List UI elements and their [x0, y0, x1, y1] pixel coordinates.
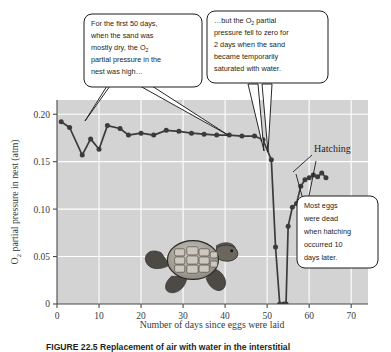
figure-caption-label: FIGURE 22.5 — [46, 342, 98, 352]
data-point — [214, 133, 219, 138]
x-tick-label: 10 — [94, 311, 104, 321]
y-tick-label: 0.20 — [33, 110, 50, 120]
callout-pressure-zero-line-3: 2 days when the sand — [214, 40, 285, 49]
callout-early-days-line-3: mostly dry, the O2 — [91, 43, 149, 53]
data-point — [105, 123, 110, 128]
data-point — [189, 131, 194, 136]
y-tick-label: 0.10 — [33, 205, 50, 215]
y-tick-label: 0.15 — [33, 157, 50, 167]
callout-pressure-zero-line-2: pressure fell to zero for — [214, 28, 289, 37]
y-tick-label: 0 — [45, 299, 50, 309]
figure-caption-text: Replacement of air with water in the int… — [100, 342, 290, 352]
data-point — [319, 171, 324, 176]
hatching-annotation-label: Hatching — [314, 143, 351, 154]
data-point — [176, 129, 181, 134]
data-point — [139, 131, 144, 136]
callout-eggs-dead-line-4: occurred 10 — [304, 240, 343, 249]
callout-pressure-zero-line-4: became temporarily — [214, 52, 278, 61]
callout-early-days: For the first 50 days, when the sand was… — [84, 14, 202, 87]
data-point — [252, 134, 257, 139]
callout-pressure-zero-line-5: saturated with water. — [214, 64, 281, 73]
callout-eggs-dead-line-2: were dead — [303, 214, 338, 223]
callout-early-days-line-5: nest was high… — [91, 67, 143, 76]
figure-caption: FIGURE 22.5 Replacement of air with wate… — [46, 342, 290, 352]
callout-early-days-line-1: For the first 50 days, — [91, 19, 158, 28]
callout-early-days-line-4: partial pressure in the — [91, 55, 161, 64]
data-point — [67, 125, 72, 130]
y-tick-label: 0.05 — [33, 252, 50, 262]
x-tick-label: 60 — [304, 311, 314, 321]
data-point — [315, 174, 320, 179]
figure-container: 00.050.100.150.20 010203040506070 O2 par… — [0, 0, 391, 352]
callout-early-days-line-2: when the sand was — [90, 31, 154, 40]
figure-svg: 00.050.100.150.20 010203040506070 O2 par… — [0, 0, 391, 352]
data-point — [118, 126, 123, 131]
data-point — [290, 205, 295, 210]
data-point — [164, 128, 169, 133]
callout-pressure-zero-line-1: …but the O2 partial — [214, 16, 277, 26]
data-point — [286, 224, 291, 229]
data-point — [307, 175, 312, 180]
data-point — [269, 157, 274, 162]
data-point — [273, 245, 278, 250]
callout-eggs-dead-line-1: Most eggs — [304, 201, 338, 210]
callout-eggs-dead-line-5: days later. — [304, 253, 337, 262]
data-point — [202, 132, 207, 137]
data-point — [126, 133, 131, 138]
data-point — [151, 133, 156, 138]
x-tick-label: 0 — [55, 311, 60, 321]
callout-eggs-dead: Most eggs were dead when hatching occurr… — [297, 196, 378, 268]
data-point — [59, 119, 64, 124]
data-point — [97, 147, 102, 152]
data-point — [88, 136, 93, 141]
data-point — [239, 134, 244, 139]
data-point — [80, 153, 85, 158]
x-axis-title: Number of days since eggs were laid — [140, 319, 285, 330]
x-tick-label: 70 — [346, 311, 356, 321]
data-point — [323, 175, 328, 180]
callout-eggs-dead-line-3: when hatching — [303, 227, 351, 236]
callout-pressure-zero: …but the O2 partial pressure fell to zer… — [207, 11, 328, 83]
